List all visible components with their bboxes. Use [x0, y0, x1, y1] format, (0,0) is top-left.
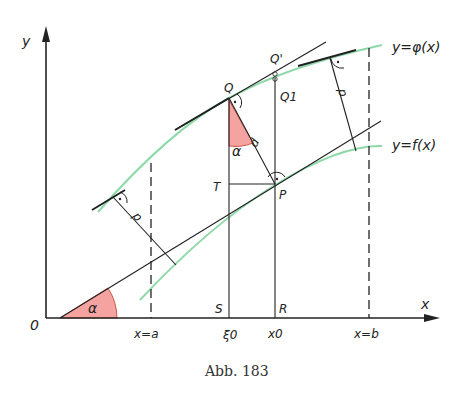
label-S: S: [215, 302, 223, 316]
figure-caption: Abb. 183: [204, 363, 269, 379]
normal-left: [113, 197, 176, 265]
right-angle-mark-q: [237, 94, 242, 108]
tangent-f: [60, 121, 381, 318]
normal-right: [330, 58, 356, 151]
tick-label-a: x=a: [133, 327, 159, 341]
diagram-figure: y x 0 y=φ(x) y=f(x) Q Q' Q1 P T S R x=a …: [0, 0, 475, 401]
y-axis-label: y: [21, 33, 31, 49]
tangent-phi-segment: [175, 98, 229, 130]
y-axis-arrow-icon: [42, 26, 50, 42]
angle-label-origin: α: [88, 300, 98, 316]
right-angle-mark-left: [120, 192, 127, 203]
tick-label-b: x=b: [353, 327, 379, 341]
x-axis-label: x: [420, 296, 430, 312]
point-Q-prime: [273, 72, 277, 76]
origin-label: 0: [30, 317, 39, 333]
distance-label-right: d: [334, 88, 349, 98]
tangent-right-segment: [298, 50, 356, 66]
label-T: T: [213, 180, 222, 194]
label-Q1: Q1: [280, 90, 297, 104]
tick-label-xi0: ξ0: [222, 328, 238, 342]
x-axis-arrow-icon: [424, 314, 440, 322]
label-Q-prime: Q': [270, 52, 283, 66]
label-Q: Q: [224, 81, 233, 95]
curve-f-label: y=f(x): [391, 137, 436, 153]
curve-phi-label: y=φ(x): [391, 39, 440, 55]
label-P: P: [279, 188, 287, 202]
curve-f: [140, 146, 382, 300]
tick-label-x0: x0: [267, 327, 283, 341]
distance-label-left: d: [128, 210, 144, 225]
label-R: R: [279, 302, 287, 316]
angle-label-q: α: [232, 143, 242, 159]
distance-label-center: d: [246, 136, 262, 150]
